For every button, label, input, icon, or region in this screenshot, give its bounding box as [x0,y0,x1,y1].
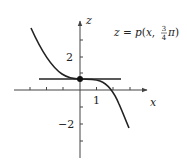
svg-text:z = p(x,: z = p(x, [113,26,155,38]
z-tick-label-2: 2 [66,51,73,64]
function-plot: z x 2 −2 1 z = p(x, 3 4 π) [0,0,187,167]
svg-text:π): π) [167,26,179,38]
x-tick-label-1: 1 [93,94,100,107]
svg-text:4: 4 [162,34,167,42]
formula-title: z = p(x, 3 4 π) [113,25,179,42]
x-axis-label: x [150,96,157,109]
z-axis-label: z [85,14,92,27]
tangent-point [77,76,83,82]
z-tick-label-neg2: −2 [58,118,74,131]
svg-text:3: 3 [162,25,166,33]
